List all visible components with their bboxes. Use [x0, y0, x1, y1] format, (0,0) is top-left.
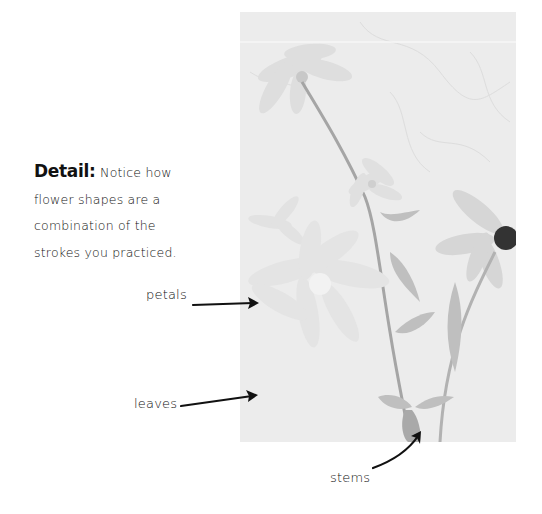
detail-note: Detail: Notice how flower shapes are a c…	[34, 158, 244, 266]
note-line-1: Detail: Notice how	[34, 158, 244, 187]
note-line-4: strokes you practiced.	[34, 240, 244, 267]
flower-photo	[240, 12, 516, 442]
label-leaves: leaves	[134, 396, 177, 411]
note-title: Detail:	[34, 161, 96, 181]
note-line-3: combination of the	[34, 213, 244, 240]
label-stems: stems	[330, 470, 370, 485]
note-text: Notice how	[100, 165, 172, 180]
label-petals: petals	[146, 287, 187, 302]
note-line-2: flower shapes are a	[34, 187, 244, 214]
flower-illustration	[240, 12, 516, 442]
